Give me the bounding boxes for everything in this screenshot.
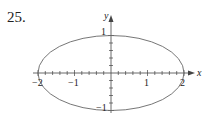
x-tick-label-2: 2 [180,77,185,88]
ellipse-plot: x y −2 −1 1 2 1 −1 [0,0,202,113]
x-tick-label-neg2: −2 [32,77,43,88]
x-axis-arrow-icon [188,71,195,76]
y-axis-arrow-icon [109,15,114,22]
y-tick-label-neg1: −1 [96,102,107,113]
y-tick-label-1: 1 [101,26,106,37]
x-axis-label: x [196,67,202,78]
y-axis-label: y [103,10,109,21]
x-tick-label-neg1: −1 [68,77,79,88]
x-tick-label-1: 1 [144,77,149,88]
